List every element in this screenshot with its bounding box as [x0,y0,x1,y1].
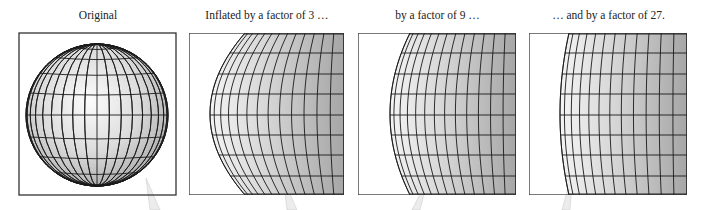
panel-original [26,44,168,186]
diagram-canvas [0,0,702,210]
panel-factor-9 [358,33,516,195]
callout-wedge [146,178,160,210]
panel-factor-27 [529,33,687,195]
panel-factor-3 [189,33,344,195]
